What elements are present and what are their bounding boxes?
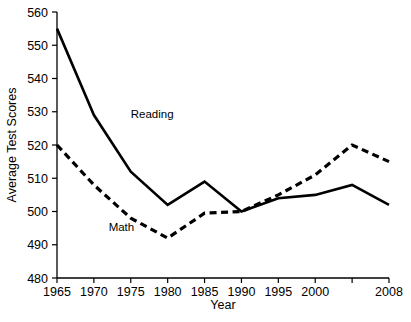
y-tick-label: 530 bbox=[27, 105, 48, 119]
y-tick-label: 480 bbox=[27, 272, 48, 286]
x-tick-label: 1965 bbox=[43, 285, 71, 299]
y-tick-label: 520 bbox=[27, 139, 48, 153]
y-tick-label: 540 bbox=[27, 72, 48, 86]
y-tick-label: 500 bbox=[27, 205, 48, 219]
x-tick-label: 1970 bbox=[80, 285, 108, 299]
y-tick-label: 560 bbox=[27, 6, 48, 20]
x-tick-label: 1975 bbox=[117, 285, 145, 299]
x-tick-label: 1985 bbox=[191, 285, 219, 299]
y-tick-label: 510 bbox=[27, 172, 48, 186]
x-tick-label: 1980 bbox=[154, 285, 182, 299]
x-tick-label: 1990 bbox=[228, 285, 256, 299]
test-scores-line-chart: 480490500510520530540550560 196519701975… bbox=[0, 0, 411, 322]
y-axis-title: Average Test Scores bbox=[5, 88, 19, 203]
series-label-reading: Reading bbox=[131, 108, 174, 120]
chart-container: 480490500510520530540550560 196519701975… bbox=[0, 0, 411, 322]
chart-background bbox=[0, 0, 411, 322]
y-tick-label: 550 bbox=[27, 39, 48, 53]
x-tick-label: 2000 bbox=[301, 285, 329, 299]
x-tick-label: 1995 bbox=[264, 285, 292, 299]
x-axis-title: Year bbox=[210, 298, 235, 312]
series-label-math: Math bbox=[109, 221, 135, 233]
x-tick-label: 2008 bbox=[375, 285, 403, 299]
y-tick-label: 490 bbox=[27, 238, 48, 252]
